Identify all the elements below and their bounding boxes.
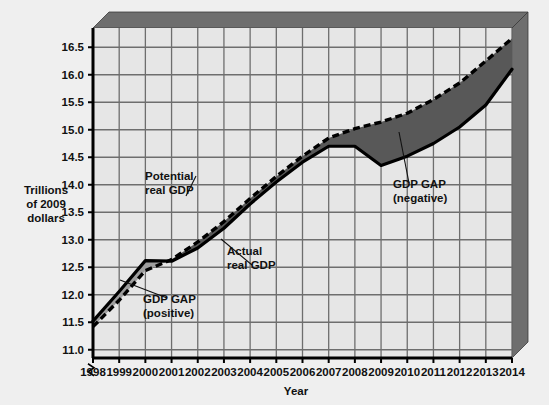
y-axis-tick-label: 11.5	[62, 316, 84, 328]
y-axis-tick-label: 14.5	[62, 151, 85, 163]
annotation-potential-line-1: Potential	[145, 170, 194, 182]
x-axis-tick-label: 2013	[473, 366, 499, 378]
x-axis-tick-label: 2006	[290, 366, 316, 378]
annotation-actual-line-2: real GDP	[227, 259, 276, 271]
x-axis-tick-label: 2009	[368, 366, 394, 378]
y-axis-tick-label: 15.0	[62, 124, 84, 136]
y-axis-tick-label: 12.5	[62, 261, 85, 273]
x-axis-tick-label: 2011	[421, 366, 447, 378]
x-axis-tick-label: 1999	[106, 366, 132, 378]
y-axis-tick-label: 11.0	[62, 344, 84, 356]
annotation-potential-line-2: real GDP	[145, 184, 194, 196]
x-axis-tick-label: 2012	[447, 366, 473, 378]
y-axis-tick-label: 16.5	[62, 41, 85, 53]
x-axis-tick-label: 2001	[159, 366, 185, 378]
y-axis-tick-label: 13.0	[62, 234, 84, 246]
x-axis-tick-label: 2008	[342, 366, 368, 378]
y-axis-title-line-1: Trillions	[24, 184, 68, 196]
chart-canvas: 11.011.512.012.513.013.514.014.515.015.5…	[0, 0, 549, 405]
x-axis-tick-label: 1998	[80, 366, 106, 378]
gdp-gap-chart: 11.011.512.012.513.013.514.014.515.015.5…	[0, 0, 549, 405]
y-axis-title: Trillions of 2009 dollars	[24, 184, 68, 224]
x-axis-tick-label: 2010	[394, 366, 420, 378]
y-axis-tick-label: 15.5	[62, 96, 85, 108]
x-axis-tick-label: 2002	[185, 366, 211, 378]
annotation-gap-negative-line-2: (negative)	[393, 192, 447, 204]
x-axis-tick-labels: 1998199920002001200220032004200520062007…	[80, 366, 525, 378]
x-axis-tick-label: 2005	[264, 366, 290, 378]
bevel-right-face	[512, 12, 528, 358]
x-axis-tick-label: 2003	[211, 366, 237, 378]
annotation-gap-positive-line-2: (positive)	[143, 307, 194, 319]
x-axis-tick-label: 2000	[133, 366, 159, 378]
annotation-gap-positive-line-1: GDP GAP	[143, 293, 196, 305]
annotation-gap-negative-line-1: GDP GAP	[393, 178, 446, 190]
x-axis-tick-label: 2007	[316, 366, 342, 378]
y-axis-tick-label: 16.0	[62, 69, 84, 81]
x-axis-title: Year	[284, 385, 309, 397]
bevel-top-face	[93, 12, 528, 28]
y-axis-title-line-2: of 2009	[26, 198, 66, 210]
y-axis-tick-label: 12.0	[62, 289, 84, 301]
x-axis-tick-label: 2014	[499, 366, 525, 378]
y-axis-title-line-3: dollars	[27, 212, 65, 224]
x-axis-tick-label: 2004	[237, 366, 263, 378]
annotation-actual-line-1: Actual	[227, 245, 262, 257]
